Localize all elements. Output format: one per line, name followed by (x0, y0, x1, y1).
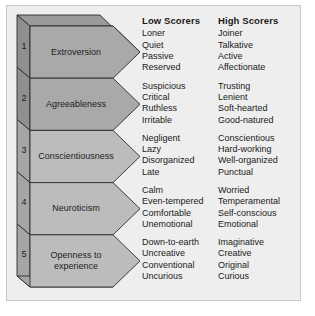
adjective: Irritable (142, 115, 186, 126)
adjective: Down-to-earth (142, 237, 199, 248)
adjective: Joiner (218, 28, 265, 39)
adjective: Reserved (142, 62, 181, 73)
column-header-high-scorers: High Scorers (218, 15, 278, 26)
adjective-list-low-3: NegligentLazyDisorganizedLate (142, 133, 195, 179)
column-header-low-scorers: Low Scorers (142, 15, 200, 26)
adjective: Disorganized (142, 155, 195, 166)
adjective: Imaginative (218, 237, 264, 248)
adjective: Conventional (142, 260, 199, 271)
adjective: Temperamental (218, 196, 280, 207)
row-number-3: 3 (18, 145, 31, 155)
adjective: Calm (142, 185, 204, 196)
adjective: Good-natured (218, 115, 274, 126)
trait-label-agreeableness: Agreeableness (34, 99, 118, 110)
adjective-list-high-4: WorriedTemperamentalSelf-consciousEmotio… (218, 185, 280, 231)
trait-label-openness-to-experience: Openness to experience (34, 250, 118, 272)
adjective-list-low-4: CalmEven-temperedComfortableUnemotional (142, 185, 204, 231)
adjective: Lazy (142, 144, 195, 155)
adjective-list-high-2: TrustingLenientSoft-heartedGood-natured (218, 81, 274, 127)
adjective: Even-tempered (142, 196, 204, 207)
adjective: Worried (218, 185, 280, 196)
adjective: Suspicious (142, 81, 186, 92)
adjective-list-low-1: LonerQuietPassiveReserved (142, 28, 181, 74)
trait-label-conscientiousness: Conscientiousness (34, 151, 118, 162)
adjective: Active (218, 51, 265, 62)
row-number-1: 1 (18, 41, 31, 51)
adjective: Negligent (142, 133, 195, 144)
adjective: Late (142, 167, 195, 178)
row-number-5: 5 (18, 249, 31, 259)
adjective: Conscientious (218, 133, 278, 144)
adjective: Curious (218, 271, 264, 282)
adjective: Affectionate (218, 62, 265, 73)
trait-label-neuroticism: Neuroticism (34, 203, 118, 214)
adjective: Comfortable (142, 208, 204, 219)
adjective-list-low-5: Down-to-earthUncreativeConventionalUncur… (142, 237, 199, 283)
adjective: Loner (142, 28, 181, 39)
adjective: Unemotional (142, 219, 204, 230)
adjective: Punctual (218, 167, 278, 178)
big-five-personality-diagram: Low Scorers High Scorers 1ExtroversionLo… (0, 0, 315, 316)
adjective: Talkative (218, 40, 265, 51)
adjective: Uncurious (142, 271, 199, 282)
adjective-list-high-3: ConscientiousHard-workingWell-organizedP… (218, 133, 278, 179)
row-number-2: 2 (18, 93, 31, 103)
adjective: Emotional (218, 219, 280, 230)
adjective-list-high-5: ImaginativeCreativeOriginalCurious (218, 237, 264, 283)
adjective: Passive (142, 51, 181, 62)
adjective: Well-organized (218, 155, 278, 166)
adjective: Creative (218, 248, 264, 259)
row-number-4: 4 (18, 197, 31, 207)
adjective: Trusting (218, 81, 274, 92)
adjective: Soft-hearted (218, 103, 274, 114)
adjective: Ruthless (142, 103, 186, 114)
adjective: Original (218, 260, 264, 271)
adjective: Quiet (142, 40, 181, 51)
adjective: Hard-working (218, 144, 278, 155)
adjective: Uncreative (142, 248, 199, 259)
adjective: Self-conscious (218, 208, 280, 219)
adjective: Lenient (218, 92, 274, 103)
adjective: Critical (142, 92, 186, 103)
adjective-list-high-1: JoinerTalkativeActiveAffectionate (218, 28, 265, 74)
adjective-list-low-2: SuspiciousCriticalRuthlessIrritable (142, 81, 186, 127)
trait-label-extroversion: Extroversion (34, 47, 118, 58)
